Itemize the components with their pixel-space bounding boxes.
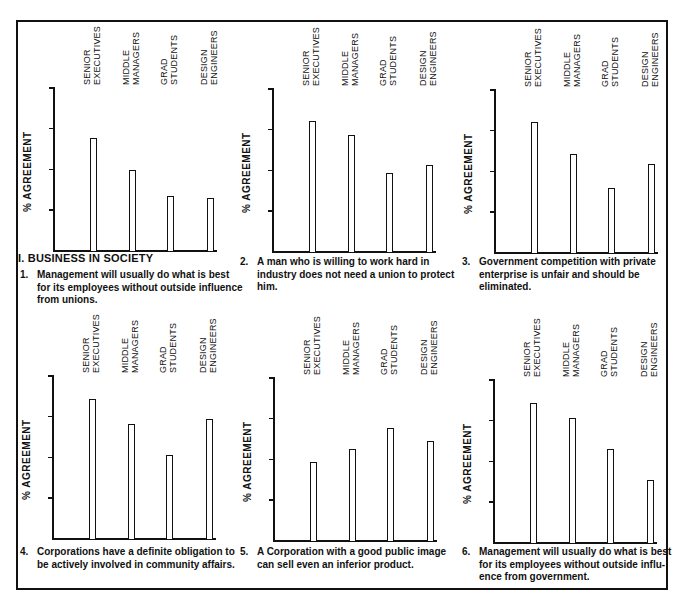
category-label: MIDDLE MANAGERS <box>563 34 582 87</box>
y-tick <box>269 377 274 379</box>
y-tick <box>490 130 495 132</box>
category-label: DESIGN ENGINEERS <box>200 30 219 85</box>
category-label: GRAD STUDENTS <box>600 327 619 377</box>
bar-design-engineers <box>427 441 434 541</box>
caption-line: Management will usually do what is best <box>37 269 232 282</box>
category-label: SENIOR EXECUTIVES <box>83 26 102 85</box>
bar-grad-students <box>607 449 614 543</box>
chart-caption: 4.Corporations have a definite obligatio… <box>20 546 232 571</box>
category-label: DESIGN ENGINEERS <box>419 31 438 86</box>
category-label: SENIOR EXECUTIVES <box>82 314 101 373</box>
bar-design-engineers <box>206 419 213 539</box>
y-tick <box>490 211 495 213</box>
bar-grad-students <box>166 455 173 539</box>
y-tick <box>269 499 274 501</box>
bar-design-engineers <box>647 480 654 543</box>
bar-middle-managers <box>129 170 136 251</box>
caption-line: industry does not need a union to protec… <box>257 269 445 282</box>
bar-senior-executives <box>531 122 538 253</box>
chart-caption: 6.Management will usually do what is bes… <box>462 546 667 584</box>
caption-text: Management will usually do what is bestf… <box>20 269 232 307</box>
y-tick <box>48 457 53 459</box>
bar-design-engineers <box>648 164 655 253</box>
caption-line: Government competition with private <box>479 256 667 269</box>
caption-line: for its employees without outside influe… <box>37 282 232 295</box>
caption-line: be actively involved in community affair… <box>37 559 232 572</box>
y-tick <box>269 459 274 461</box>
y-tick <box>490 89 495 91</box>
category-label: DESIGN ENGINEERS <box>640 322 659 377</box>
category-label: GRAD STUDENTS <box>379 36 398 86</box>
y-axis-label: % AGREEMENT <box>463 133 474 214</box>
bar-middle-managers <box>348 135 355 252</box>
bar-senior-executives <box>89 399 96 539</box>
bar-middle-managers <box>569 418 576 543</box>
bar-design-engineers <box>207 198 214 251</box>
y-tick <box>49 128 54 130</box>
y-tick <box>49 169 54 171</box>
y-tick <box>269 418 274 420</box>
y-tick <box>268 210 273 212</box>
caption-text: Corporations have a definite obligation … <box>20 546 232 571</box>
category-label: MIDDLE MANAGERS <box>341 33 360 86</box>
chart-caption: 3.Government competition with privateent… <box>462 256 667 294</box>
chart-caption: 2.A man who is willing to work hard inin… <box>240 256 445 294</box>
y-tick <box>268 170 273 172</box>
y-tick <box>489 420 494 422</box>
y-tick <box>268 88 273 90</box>
category-label: SENIOR EXECUTIVES <box>303 316 322 375</box>
category-label: GRAD STUDENTS <box>380 325 399 375</box>
category-label: SENIOR EXECUTIVES <box>302 27 321 86</box>
bar-middle-managers <box>349 449 356 541</box>
category-label: DESIGN ENGINEERS <box>199 318 218 373</box>
bar-grad-students <box>386 173 393 252</box>
caption-number: 3. <box>462 256 470 269</box>
caption-text: A man who is willing to work hard inindu… <box>240 256 445 294</box>
caption-text: Government competition with privateenter… <box>462 256 667 294</box>
y-tick <box>48 497 53 499</box>
chart-caption: 1.Management will usually do what is bes… <box>20 269 232 307</box>
bar-senior-executives <box>90 138 97 251</box>
caption-number: 6. <box>462 546 470 559</box>
y-tick <box>489 501 494 503</box>
bar-grad-students <box>608 188 615 253</box>
chart-caption: 5.A Corporation with a good public image… <box>240 546 445 571</box>
y-tick <box>489 379 494 381</box>
category-label: GRAD STUDENTS <box>160 35 179 85</box>
caption-number: 1. <box>20 269 28 282</box>
category-label: DESIGN ENGINEERS <box>641 32 660 87</box>
bar-grad-students <box>387 428 394 541</box>
category-label: MIDDLE MANAGERS <box>122 32 141 85</box>
y-tick <box>48 416 53 418</box>
caption-line: A man who is willing to work hard in <box>257 256 445 269</box>
caption-number: 5. <box>240 546 248 559</box>
bar-senior-executives <box>309 121 316 252</box>
category-label: GRAD STUDENTS <box>159 323 178 373</box>
caption-line: can sell even an inferior product. <box>257 559 445 572</box>
bar-middle-managers <box>570 154 577 253</box>
caption-text: Management will usually do what is bestf… <box>462 546 667 584</box>
caption-line: Corporations have a definite obligation … <box>37 546 232 559</box>
y-axis-label: % AGREEMENT <box>241 132 252 213</box>
y-axis-label: % AGREEMENT <box>22 131 33 212</box>
caption-line: eliminated. <box>479 281 667 294</box>
y-tick <box>489 461 494 463</box>
y-tick <box>49 209 54 211</box>
caption-line: him. <box>257 281 445 294</box>
category-label: MIDDLE MANAGERS <box>562 324 581 377</box>
y-tick <box>49 87 54 89</box>
category-label: SENIOR EXECUTIVES <box>523 318 542 377</box>
y-axis-label: % AGREEMENT <box>242 421 253 502</box>
section-title: I. BUSINESS IN SOCIETY <box>18 252 153 264</box>
y-tick <box>490 171 495 173</box>
bar-design-engineers <box>426 165 433 252</box>
category-label: MIDDLE MANAGERS <box>121 320 140 373</box>
bar-senior-executives <box>530 403 537 543</box>
y-axis-label: % AGREEMENT <box>21 419 32 500</box>
category-label: GRAD STUDENTS <box>601 37 620 87</box>
caption-number: 2. <box>240 256 248 269</box>
caption-text: A Corporation with a good public imageca… <box>240 546 445 571</box>
bar-grad-students <box>167 196 174 251</box>
y-tick <box>48 375 53 377</box>
category-label: DESIGN ENGINEERS <box>420 320 439 375</box>
